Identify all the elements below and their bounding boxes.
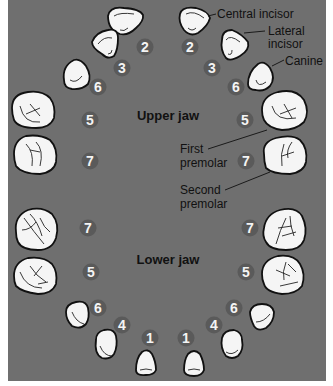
badge-upper-right-first-premolar: 5 xyxy=(237,112,254,129)
upper-right-first-premolar xyxy=(262,91,307,130)
dental-diagram: 2 2 3 3 6 6 5 5 7 7 7 7 5 5 6 6 4 4 1 1 … xyxy=(0,0,333,386)
upper-jaw-title: Upper jaw xyxy=(137,108,199,123)
lower-left-second-premolar xyxy=(16,209,58,250)
lower-left-first-premolar xyxy=(14,258,57,294)
upper-left-second-premolar xyxy=(14,136,56,175)
upper-right-central-incisor xyxy=(180,8,211,35)
upper-right-canine xyxy=(248,63,273,91)
badge-lower-right-second-premolar: 7 xyxy=(242,220,259,237)
leader-canine xyxy=(272,60,284,66)
label-second-premolar-line2: premolar xyxy=(180,198,227,211)
lower-left-canine xyxy=(66,302,89,328)
label-first-premolar-line1: First xyxy=(180,143,203,156)
badge-lower-right-lateral-incisor: 4 xyxy=(206,317,223,334)
badge-lower-right-canine: 6 xyxy=(226,300,243,317)
lower-right-first-premolar xyxy=(262,256,304,294)
badge-lower-left-first-premolar: 5 xyxy=(83,264,100,281)
badge-lower-right-first-premolar: 5 xyxy=(238,264,255,281)
badge-upper-left-central-incisor: 2 xyxy=(137,39,154,56)
badge-lower-left-second-premolar: 7 xyxy=(80,220,97,237)
leader-first-premolar xyxy=(208,130,267,149)
badge-upper-right-lateral-incisor: 3 xyxy=(204,60,221,77)
lower-jaw-title: Lower jaw xyxy=(137,252,200,267)
badge-upper-right-central-incisor: 2 xyxy=(182,39,199,56)
badge-upper-right-second-premolar: 7 xyxy=(238,153,255,170)
label-canine: Canine xyxy=(285,55,323,68)
badge-lower-left-canine: 6 xyxy=(90,300,107,317)
label-central-incisor: Central incisor xyxy=(217,8,294,21)
badge-upper-left-lateral-incisor: 3 xyxy=(114,60,131,77)
teeth-layer xyxy=(0,0,333,386)
badge-upper-left-second-premolar: 7 xyxy=(82,153,99,170)
label-lateral-incisor-line2: incisor xyxy=(268,38,303,51)
lower-left-central-incisor xyxy=(136,350,156,375)
lower-right-central-incisor xyxy=(184,351,204,376)
badge-lower-right-central-incisor: 1 xyxy=(178,330,195,347)
badge-upper-right-canine: 6 xyxy=(228,79,245,96)
upper-left-canine xyxy=(64,60,90,90)
upper-right-lateral-incisor xyxy=(222,30,249,60)
badge-upper-left-canine: 6 xyxy=(90,79,107,96)
lower-right-canine xyxy=(250,304,274,330)
upper-left-lateral-incisor xyxy=(92,30,118,58)
badge-lower-left-central-incisor: 1 xyxy=(142,330,159,347)
leader-second-premolar xyxy=(225,172,270,190)
upper-left-first-premolar xyxy=(12,92,55,128)
lower-right-second-premolar xyxy=(263,209,305,250)
badge-lower-left-lateral-incisor: 4 xyxy=(114,317,131,334)
label-second-premolar-line1: Second xyxy=(180,184,221,197)
label-first-premolar-line2: premolar xyxy=(180,157,227,170)
badge-upper-left-first-premolar: 5 xyxy=(82,112,99,129)
leader-lateral-incisor xyxy=(244,31,265,33)
